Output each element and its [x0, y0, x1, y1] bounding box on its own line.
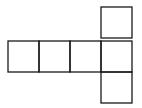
net-square-top	[101, 7, 132, 38]
net-square-row-4	[101, 41, 132, 72]
cube-net-diagram	[0, 0, 142, 108]
net-square-row-3	[70, 41, 101, 72]
net-square-bottom	[101, 72, 132, 103]
net-square-row-2	[39, 41, 70, 72]
net-square-row-1	[8, 41, 39, 72]
